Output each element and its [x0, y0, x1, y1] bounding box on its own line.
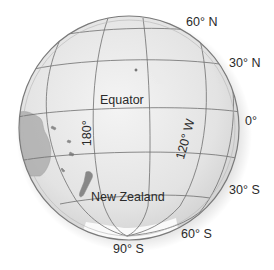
label-30n: 30° N — [229, 57, 260, 70]
globe-graphic — [0, 0, 274, 270]
label-30s: 30° S — [229, 184, 260, 197]
label-90s: 90° S — [113, 243, 144, 256]
label-equator: Equator — [100, 94, 144, 107]
label-0: 0° — [245, 115, 257, 128]
label-180: 180° — [81, 120, 94, 146]
globe-diagram: 60° N 30° N 0° 30° S 60° S 90° S Equator… — [0, 0, 274, 270]
label-60s: 60° S — [181, 228, 212, 241]
label-60n: 60° N — [186, 16, 217, 29]
label-new-zealand: New Zealand — [91, 191, 165, 204]
hawaii-dot — [135, 69, 137, 71]
